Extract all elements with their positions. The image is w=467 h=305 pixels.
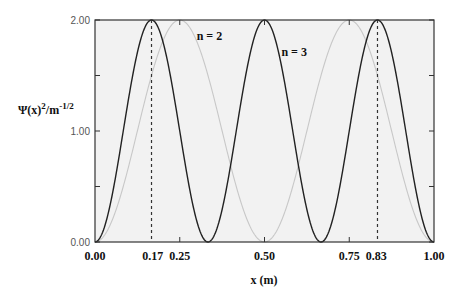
y-axis-label: Ψ(x)2/m-1/2 xyxy=(18,101,74,117)
y-tick-label: 0.00 xyxy=(71,237,91,248)
y-axis-label-mid: /m xyxy=(45,103,59,117)
y-axis-label-sup2: -1/2 xyxy=(59,101,74,111)
x-tick-labels: 0.000.170.250.500.750.831.00 xyxy=(85,249,445,263)
y-axis-label-base: Ψ(x) xyxy=(18,103,41,117)
plot-area xyxy=(95,20,434,242)
x-tick-label: 0.25 xyxy=(169,249,190,263)
curve-annotation: n = 3 xyxy=(281,45,307,59)
y-tick-label: 1.00 xyxy=(71,126,91,137)
y-tick-labels: 0.001.002.00 xyxy=(71,15,91,248)
x-axis-label: x (m) xyxy=(251,273,278,287)
x-tick-label: 1.00 xyxy=(424,249,445,263)
x-tick-label: 0.75 xyxy=(339,249,360,263)
x-tick-label: 0.00 xyxy=(85,249,106,263)
x-tick-label: 0.50 xyxy=(254,249,275,263)
x-tick-label: 0.83 xyxy=(366,249,387,263)
x-tick-label: 0.17 xyxy=(142,249,163,263)
chart: 0.001.002.00 0.000.170.250.500.750.831.0… xyxy=(0,0,467,305)
curve-annotation: n = 2 xyxy=(197,29,223,43)
y-tick-label: 2.00 xyxy=(71,15,91,26)
